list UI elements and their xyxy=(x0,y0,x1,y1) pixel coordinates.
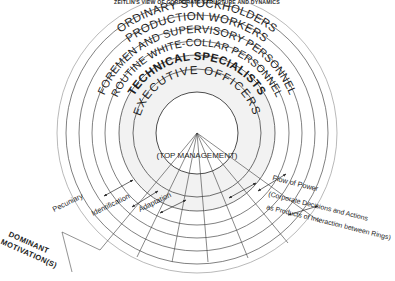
dominant-motivations-label: DOMINANT MOTIVATION(S) xyxy=(0,228,63,270)
center-label: (TOP MANAGEMENT) xyxy=(156,151,237,160)
flow-of-power-line1: Flow of Power xyxy=(272,173,320,193)
flow-of-power-caption: Flow of Power (Corporate Decisions and A… xyxy=(266,173,392,242)
diagram-canvas: ZEITLIN'S VIEW OF CORPORATE STRUCTURE AN… xyxy=(0,0,395,281)
motivation-label-pecuniary: Pecuniary xyxy=(51,191,85,214)
bracket-edge-left xyxy=(62,232,100,250)
bracket-edge-bottom xyxy=(62,232,72,272)
motivation-label-identification: Identification xyxy=(90,192,131,218)
arrow-pecuniary-identification xyxy=(104,180,133,196)
dominant-motivations-bracket xyxy=(62,232,100,272)
